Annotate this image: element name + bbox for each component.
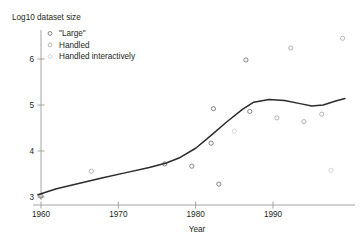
x-tick-label: 1980: [187, 210, 206, 219]
data-point-marker: [329, 168, 333, 172]
legend-item[interactable]: Handled interactively: [48, 52, 136, 61]
legend-marker-icon: [48, 55, 52, 59]
data-point-marker: [320, 112, 324, 116]
x-axis-title: Year: [189, 225, 206, 234]
legend-marker-icon: [48, 43, 52, 47]
data-point-marker: [211, 107, 215, 111]
data-point-marker: [244, 58, 248, 62]
x-tick-label: 1990: [264, 210, 283, 219]
y-tick-label: 6: [29, 55, 34, 64]
data-point-marker: [217, 182, 221, 186]
legend-marker-icon: [48, 32, 52, 36]
data-point-marker: [275, 116, 279, 120]
scatter-plot-canvas: 34561960197019801990Log10 dataset sizeYe…: [0, 0, 362, 238]
y-tick-label: 5: [29, 101, 34, 110]
legend-item[interactable]: Handled: [48, 41, 90, 50]
data-point-marker: [209, 141, 213, 145]
series-group: [232, 129, 333, 172]
data-point-marker: [190, 164, 194, 168]
data-point-marker: [341, 36, 345, 40]
legend-item-label: Handled: [59, 41, 90, 50]
chart-figure: 34561960197019801990Log10 dataset sizeYe…: [0, 0, 362, 238]
x-tick-label: 1970: [109, 210, 128, 219]
legend-item-label: Handled interactively: [59, 52, 136, 61]
trend-line: [38, 99, 345, 195]
data-point-marker: [289, 46, 293, 50]
data-point-marker: [248, 109, 252, 113]
y-tick-label: 3: [29, 193, 34, 202]
y-tick-label: 4: [29, 147, 34, 156]
y-axis-title: Log10 dataset size: [12, 13, 81, 22]
data-point-marker: [232, 129, 236, 133]
data-point-marker: [302, 119, 306, 123]
data-point-marker: [89, 169, 93, 173]
legend-item-label: "Large": [59, 29, 86, 38]
legend-item[interactable]: "Large": [48, 29, 86, 38]
x-tick-label: 1960: [32, 210, 51, 219]
